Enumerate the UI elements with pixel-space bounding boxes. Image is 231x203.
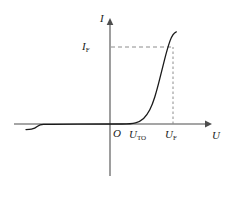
y-axis [107, 18, 114, 176]
origin-label: O [113, 128, 121, 139]
diode-curve [26, 32, 176, 130]
forward-voltage-symbol: U [165, 128, 173, 140]
y-axis-arrowhead [107, 18, 114, 25]
x-axis-label: U [212, 130, 220, 141]
y-axis-label: I [100, 13, 104, 24]
threshold-voltage-subscript: TO [137, 134, 146, 142]
forward-current-label: IF [82, 41, 90, 52]
x-axis-arrowhead [205, 121, 212, 128]
threshold-voltage-symbol: U [129, 128, 137, 140]
forward-voltage-label: UF [165, 129, 177, 140]
diode-iv-characteristic-figure: I U O IF UTO UF [0, 0, 231, 203]
forward-current-subscript: F [86, 46, 90, 54]
threshold-voltage-label: UTO [129, 129, 146, 140]
forward-voltage-subscript: F [173, 134, 177, 142]
plot-canvas [0, 0, 231, 203]
